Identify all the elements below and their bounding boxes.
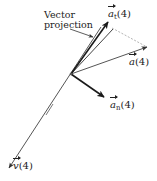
a-t-symbol: a	[108, 9, 114, 19]
vector-projection-callout: Vector projection	[44, 10, 93, 30]
callout-pointer-arrow	[70, 29, 93, 37]
v-symbol: v	[13, 161, 19, 171]
velocity-vector-arrow	[9, 27, 101, 168]
label-v: v(4)	[13, 161, 33, 171]
label-a-t: at(4)	[108, 9, 131, 22]
a-symbol: a	[129, 57, 135, 67]
v-arg: (4)	[19, 160, 33, 171]
origin-point	[70, 73, 73, 76]
label-a-n: an(4)	[110, 100, 135, 113]
dashed-connector-line	[112, 28, 147, 47]
a-n-arg: (4)	[120, 99, 134, 110]
callout-line-2: projection	[44, 20, 93, 30]
a-t-arg: (4)	[117, 8, 131, 19]
normal-acceleration-arrow	[71, 74, 104, 97]
vector-projection-line	[71, 29, 113, 74]
a-arg: (4)	[135, 56, 149, 67]
a-n-symbol: a	[110, 100, 116, 110]
label-a: a(4)	[129, 57, 149, 67]
